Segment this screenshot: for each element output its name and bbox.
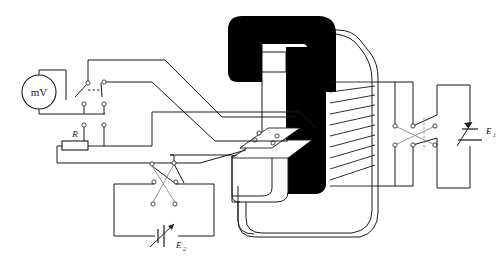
dpdt-meter-switch[interactable] — [75, 60, 165, 114]
e1-switch-terminal-top-mid — [411, 124, 415, 128]
variable-battery-e2: E 2 — [150, 224, 186, 252]
lower-terminal-left — [82, 123, 86, 127]
resistor-body — [62, 141, 88, 150]
e1-switch-terminal-bot-mid — [411, 143, 415, 147]
e1-arrow-head — [464, 122, 472, 128]
magnet-pole-column-fill — [286, 47, 326, 194]
e2-switch-terminal-bot-right — [173, 202, 177, 206]
sample-contact-1 — [257, 131, 261, 135]
magnet-gap-notch — [262, 52, 286, 72]
reversing-switch-e1[interactable] — [393, 115, 437, 150]
e2-loop-wires — [114, 155, 214, 236]
meter-switch-terminal-top-right — [102, 80, 106, 84]
e1-switch-terminal-top-left — [393, 124, 397, 128]
e1-label-sub: 1 — [493, 132, 496, 138]
e2-switch-terminal-top-left — [150, 162, 154, 166]
meter-switch-terminal-bot-right — [102, 102, 106, 106]
e1-switch-terminal-bot-left — [393, 143, 397, 147]
e1-loop-wires — [437, 85, 470, 188]
e1-switch-terminal-bot-right — [433, 143, 437, 147]
e1-label: E — [485, 126, 492, 136]
millivoltmeter: mV — [22, 75, 56, 109]
meter-switch-terminal-bot-left — [82, 102, 86, 106]
e2-switch-terminal-bot-left — [151, 202, 155, 206]
resistor-label: R — [71, 129, 78, 139]
e1-switch-terminal-top-right — [433, 124, 437, 128]
coil-to-e1-wires — [375, 82, 413, 186]
e2-switch-terminal-mid-left — [152, 180, 156, 184]
variable-battery-e1: E 1 — [457, 122, 496, 146]
sample-contact-4 — [271, 141, 275, 145]
meter-switch-terminal-top-left — [86, 81, 90, 85]
e2-switch-terminal-mid-right — [174, 180, 178, 184]
electromagnet-core-group — [228, 16, 378, 237]
hall-effect-circuit-diagram: mV — [0, 0, 500, 269]
magnet-yoke-left-limb — [228, 30, 262, 74]
lower-terminal-right — [102, 123, 106, 127]
e2-label-sub: 2 — [183, 246, 186, 252]
figure-canvas: mV — [0, 0, 500, 269]
meter-lower-terminal-pair — [82, 123, 152, 146]
sample-contact-3 — [275, 134, 279, 138]
meter-label: mV — [31, 86, 48, 98]
e2-switch-terminal-top-right — [172, 161, 176, 165]
e2-label: E — [175, 240, 182, 250]
